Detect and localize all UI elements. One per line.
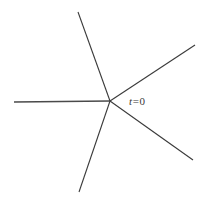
label-value: 0 [139,95,145,107]
ray-upper [78,12,110,101]
ray-lower-left [79,101,110,192]
ray-lower-right [110,101,193,160]
vertex-label: t=0 [129,95,145,107]
ray-upper-right [110,45,195,101]
figure-canvas: t=0 [0,0,203,204]
ray-left [14,101,110,102]
ray-diagram [0,0,203,204]
